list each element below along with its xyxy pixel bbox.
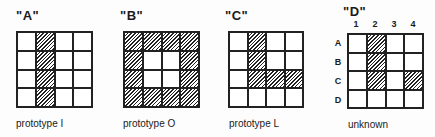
panel-d-caption: unknown xyxy=(348,119,388,130)
panel-b-title: "B" xyxy=(120,8,143,23)
empty-cell xyxy=(348,53,367,72)
hatched-cell xyxy=(124,51,143,70)
empty-cell xyxy=(348,34,367,53)
empty-cell xyxy=(17,88,36,107)
empty-cell xyxy=(367,90,386,109)
hatched-cell xyxy=(248,70,267,89)
hatched-cell xyxy=(367,34,386,53)
hatched-cell xyxy=(36,51,55,70)
panel-a-title: "A" xyxy=(16,8,39,23)
hatched-cell xyxy=(248,51,267,70)
hatched-cell xyxy=(367,71,386,90)
hatched-cell xyxy=(404,71,423,90)
empty-cell xyxy=(143,51,162,70)
empty-cell xyxy=(17,51,36,70)
empty-cell xyxy=(404,90,423,109)
panel-d-grid xyxy=(347,33,424,109)
hatched-cell xyxy=(248,32,267,51)
empty-cell xyxy=(229,70,248,89)
hatched-cell xyxy=(143,32,162,51)
hatched-cell xyxy=(180,88,199,107)
hatched-cell xyxy=(162,88,181,107)
empty-cell xyxy=(285,32,304,51)
row-label-b: B xyxy=(333,57,343,67)
hatched-cell xyxy=(180,51,199,70)
empty-cell xyxy=(143,70,162,89)
empty-cell xyxy=(55,51,74,70)
row-label-d: D xyxy=(333,95,343,105)
empty-cell xyxy=(285,51,304,70)
empty-cell xyxy=(162,70,181,89)
empty-cell xyxy=(55,88,74,107)
panel-a-grid xyxy=(16,31,93,108)
hatched-cell xyxy=(285,70,304,89)
row-label-c: C xyxy=(333,76,343,86)
column-label-2: 2 xyxy=(370,19,380,29)
empty-cell xyxy=(285,88,304,107)
hatched-cell xyxy=(124,32,143,51)
hatched-cell xyxy=(180,70,199,89)
panel-b-grid xyxy=(123,31,200,108)
panel-c-title: "C" xyxy=(225,8,248,23)
empty-cell xyxy=(73,32,92,51)
empty-cell xyxy=(73,70,92,89)
empty-cell xyxy=(404,53,423,72)
empty-cell xyxy=(229,32,248,51)
panel-d-title: "D" xyxy=(343,4,366,19)
hatched-cell xyxy=(36,88,55,107)
empty-cell xyxy=(386,90,405,109)
empty-cell xyxy=(73,88,92,107)
hatched-cell xyxy=(180,32,199,51)
panel-c-caption: prototype L xyxy=(229,118,279,129)
empty-cell xyxy=(248,88,267,107)
empty-cell xyxy=(266,51,285,70)
hatched-cell xyxy=(124,88,143,107)
empty-cell xyxy=(386,53,405,72)
row-label-a: A xyxy=(333,38,343,48)
panel-b-caption: prototype O xyxy=(123,118,175,129)
empty-cell xyxy=(55,32,74,51)
empty-cell xyxy=(348,90,367,109)
empty-cell xyxy=(348,71,367,90)
column-label-4: 4 xyxy=(408,19,418,29)
empty-cell xyxy=(229,88,248,107)
empty-cell xyxy=(404,34,423,53)
empty-cell xyxy=(17,32,36,51)
empty-cell xyxy=(229,51,248,70)
hatched-cell xyxy=(266,70,285,89)
empty-cell xyxy=(266,88,285,107)
empty-cell xyxy=(266,32,285,51)
empty-cell xyxy=(17,70,36,89)
hatched-cell xyxy=(36,32,55,51)
empty-cell xyxy=(386,34,405,53)
hatched-cell xyxy=(36,70,55,89)
empty-cell xyxy=(55,70,74,89)
hatched-cell xyxy=(367,53,386,72)
hatched-cell xyxy=(143,88,162,107)
hatched-cell xyxy=(162,32,181,51)
empty-cell xyxy=(386,71,405,90)
panel-a-caption: prototype I xyxy=(16,118,63,129)
column-label-3: 3 xyxy=(389,19,399,29)
column-label-1: 1 xyxy=(351,19,361,29)
empty-cell xyxy=(162,51,181,70)
hatched-cell xyxy=(124,70,143,89)
panel-c-grid xyxy=(228,31,304,108)
empty-cell xyxy=(73,51,92,70)
